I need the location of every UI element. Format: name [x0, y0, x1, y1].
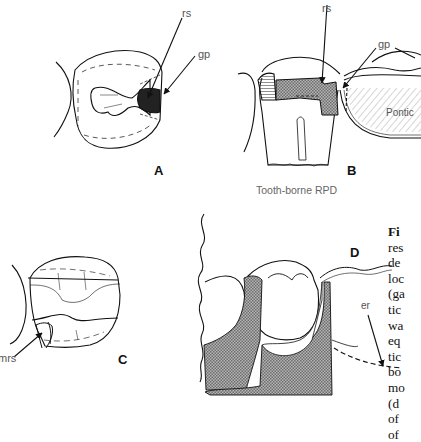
- caption-line: (ga: [388, 286, 421, 302]
- panel-a: [54, 18, 195, 148]
- caption-line: eq: [388, 333, 421, 349]
- panel-c: [10, 257, 120, 357]
- annotation-er: er: [361, 300, 371, 311]
- panel-label-a: A: [154, 163, 164, 178]
- caption-line: bo: [388, 364, 421, 380]
- caption-tooth-borne-rpd: Tooth-borne RPD: [256, 184, 338, 196]
- caption-line: (d: [388, 396, 421, 412]
- annotation-pontic: Pontic: [386, 107, 414, 118]
- panel-b: [238, 5, 421, 166]
- figure-caption-text: Fi res de loc (ga tic wa eq tic bo mo (d…: [388, 224, 421, 442]
- caption-line: tic: [388, 302, 421, 318]
- panel-label-c: C: [118, 352, 128, 367]
- panel-d: [198, 214, 402, 395]
- caption-line: of: [388, 427, 421, 442]
- annotation-rs-b: rs: [322, 2, 332, 14]
- annotation-gp-a: gp: [198, 48, 210, 60]
- annotation-gp-b: gp: [378, 38, 390, 50]
- caption-line: wa: [388, 318, 421, 334]
- panel-label-d: D: [350, 245, 359, 260]
- panel-label-b: B: [347, 163, 356, 178]
- annotation-mrs: mrs: [0, 352, 17, 364]
- caption-line: de: [388, 255, 421, 271]
- caption-line: res: [388, 240, 421, 256]
- caption-line: mo: [388, 380, 421, 396]
- caption-line: of: [388, 411, 421, 427]
- caption-line: Fi: [388, 224, 421, 240]
- caption-line: loc: [388, 271, 421, 287]
- caption-line: tic: [388, 349, 421, 365]
- annotation-rs-a: rs: [182, 7, 192, 19]
